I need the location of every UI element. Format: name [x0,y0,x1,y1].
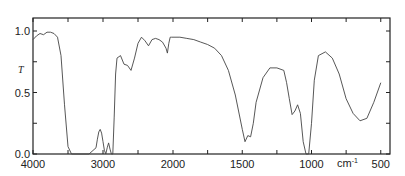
x-tick-label: 1500 [230,158,254,170]
x-axis-ticks [33,18,381,154]
y-axis-label: T [18,64,25,75]
x-axis-unit: cm-1 [337,157,358,169]
x-axis-labels: 40003000200015001000500 [21,158,390,170]
plot-frame [33,18,390,154]
x-tick-label: 3000 [91,158,115,170]
x-tick-label: 4000 [21,158,45,170]
x-tick-label: 1000 [299,158,323,170]
y-axis-ticks [33,31,390,154]
spectrum-trace [33,32,381,154]
y-tick-label: 1.0 [15,25,30,37]
y-axis-labels: 0.00.51.0 [15,25,30,160]
y-tick-label: 0.5 [15,87,30,99]
ir-spectrum-chart: 0.00.51.0 40003000200015001000500 T cm-1 [0,0,405,176]
x-tick-label: 500 [372,158,390,170]
x-tick-label: 2000 [161,158,185,170]
